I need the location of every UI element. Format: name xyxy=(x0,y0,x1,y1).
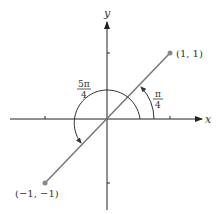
point-label-neg1-neg1: (−1, −1) xyxy=(15,188,59,199)
x-axis-label: x xyxy=(205,113,212,126)
angle-pi-4-numerator: π xyxy=(155,89,161,99)
arc-pi-4 xyxy=(141,87,154,119)
angle-5pi-4-denominator: 4 xyxy=(81,90,87,100)
angle-diagram: x y (1, 1) (−1, −1) π 4 5π 4 xyxy=(0,0,218,214)
point-label-1-1: (1, 1) xyxy=(176,48,203,59)
angle-pi-4-denominator: 4 xyxy=(155,100,161,110)
point-neg1-neg1 xyxy=(43,181,48,186)
y-axis-label: y xyxy=(103,7,111,20)
angle-5pi-4-numerator: 5π xyxy=(78,79,90,89)
point-1-1 xyxy=(168,51,173,56)
